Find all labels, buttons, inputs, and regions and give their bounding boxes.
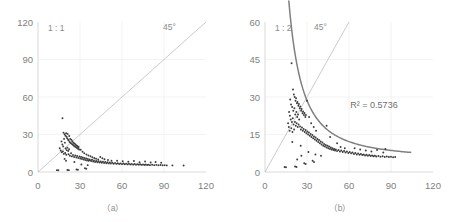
panel-a-ratio-label: 1 : 1 [48,23,65,33]
data-point [63,132,65,134]
panel-b-ytick-15: 15 [249,129,260,140]
data-point [68,135,70,137]
data-point [309,135,311,137]
data-point [68,153,70,155]
data-point [289,130,291,132]
data-point [305,129,307,131]
data-point [301,127,303,129]
data-point [83,152,85,154]
data-point [73,161,75,163]
data-point [306,100,308,102]
data-point [326,125,328,127]
data-point [77,169,79,171]
panel-b-ytick-45: 45 [249,54,260,65]
data-point [65,154,67,156]
data-point [304,131,306,133]
data-point [346,151,348,153]
panel-a-ytick-0: 0 [28,167,33,178]
data-point [291,131,293,133]
data-point [157,164,159,166]
data-point [320,141,322,143]
data-point [382,152,384,154]
data-point [85,154,87,156]
data-point [82,157,84,159]
data-point [87,155,89,157]
data-point [292,110,294,112]
data-point [310,133,312,135]
panel-a-xtick-60: 60 [117,180,128,191]
panel-a-xtick-30: 30 [75,180,86,191]
data-point [74,155,76,157]
data-point [293,94,295,96]
data-point [57,169,59,171]
data-point [62,150,64,152]
panel-a-svg: 0 30 60 90 120 0 30 60 90 120 1 : 1 45° … [0,0,226,222]
data-point [370,151,372,153]
data-point [394,156,396,158]
panel-b-xtick-0: 0 [262,180,267,191]
panel-a-xtick-90: 90 [159,180,170,191]
data-point [315,137,317,139]
data-point [183,165,185,167]
data-point [295,97,297,99]
data-point [68,148,70,150]
data-point [308,116,310,118]
data-point [127,161,129,163]
data-point [325,144,327,146]
data-point [291,141,293,143]
data-point [328,146,330,148]
data-point [313,161,315,163]
data-point [318,139,320,141]
data-point [302,111,304,113]
data-point [390,156,392,158]
data-point [160,162,162,164]
panel-b-caption: （b） [329,203,352,213]
data-point [91,159,93,161]
data-point [295,100,297,102]
panel-a-diagonal-label: 45° [163,22,176,32]
data-point [316,138,318,140]
data-point [298,124,300,126]
data-point [93,157,95,159]
data-point [294,114,296,116]
data-point [295,125,297,127]
panel-b-ytick-0: 0 [255,167,260,178]
data-point [69,155,71,157]
data-point [166,164,168,166]
data-point [107,159,109,161]
data-point [144,161,146,163]
data-point [82,151,84,153]
data-point [291,106,293,108]
data-point [299,126,301,128]
data-point [296,166,298,168]
data-point [95,158,97,160]
data-point [65,148,67,150]
panel-b-diagonal-label: 45° [314,22,327,32]
panel-b-y-tick-labels: 0 15 30 45 60 [249,17,260,178]
data-point [133,160,135,162]
data-point [307,151,309,153]
data-point [312,137,314,139]
data-point [87,164,89,166]
data-point [60,150,62,152]
data-point [306,131,308,133]
data-point [293,124,295,126]
data-point [59,147,61,149]
data-point [336,142,338,144]
data-point [352,152,354,154]
data-point [297,126,299,128]
data-point [122,160,124,162]
figure-container: 0 30 60 90 120 0 30 60 90 120 1 : 1 45° … [0,0,453,222]
data-point [300,110,302,112]
data-point [307,134,309,136]
data-point [150,162,152,164]
data-point [375,156,377,158]
data-point [298,119,300,121]
data-point [388,156,390,158]
data-point [289,99,291,101]
data-point [293,107,295,109]
panel-a-caption: （a） [102,203,125,213]
data-point [285,166,287,168]
data-point [292,117,294,119]
panel-a-ytick-90: 90 [22,54,33,65]
